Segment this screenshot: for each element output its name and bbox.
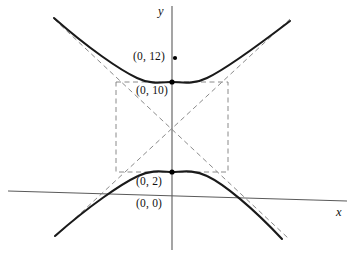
vertex-point-0-2 xyxy=(169,169,174,174)
vertex-point-0-10 xyxy=(169,79,174,84)
figure-canvas xyxy=(0,0,353,253)
hyperbola-figure: (0, 12) (0, 10) (0, 2) (0, 0) x y xyxy=(0,0,353,253)
x-axis-label: x xyxy=(336,206,342,219)
label-0-10: (0, 10) xyxy=(136,85,168,97)
label-0-12: (0, 12) xyxy=(133,51,165,63)
asymptote-rising xyxy=(56,19,290,236)
focus-point-0-12 xyxy=(173,56,177,60)
label-0-0: (0, 0) xyxy=(136,198,162,210)
y-axis-label: y xyxy=(158,5,164,18)
x-axis-line xyxy=(8,191,347,201)
label-0-2: (0, 2) xyxy=(136,176,162,188)
